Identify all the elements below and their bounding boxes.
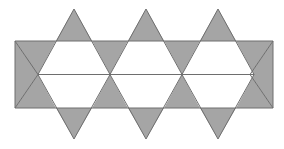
hexagram-tessellation-svg xyxy=(0,0,284,149)
figure-container xyxy=(0,0,284,149)
